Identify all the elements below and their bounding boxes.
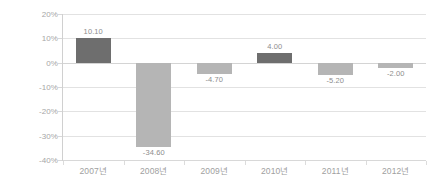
bar-2007년 [76,38,111,63]
bar-2008년 [136,63,171,147]
y-axis-tick-label: 20% [2,10,58,19]
bar-2010년 [257,53,292,63]
gridline [63,136,426,137]
x-axis-tick-label: 2012년 [366,164,426,176]
plot-area: 10.10-34.60-4.704.00-5.20-2.00 [63,14,426,160]
bar-value-label: -4.70 [184,75,244,84]
y-axis-tick-label: -20% [2,107,58,116]
bar-value-label: 10.10 [63,27,123,36]
gridline [63,14,426,15]
y-axis-tick-label: 0% [2,58,58,67]
gridline [63,38,426,39]
x-axis-tick-mark [245,161,246,165]
y-axis-tick-mark [58,87,62,88]
y-axis-tick-mark [58,63,62,64]
bar-value-label: 4.00 [245,42,305,51]
gridline [63,87,426,88]
y-axis-tick-label: -40% [2,156,58,165]
gridline [63,111,426,112]
y-axis-labels: 20%10%0%-10%-20%-30%-40% [0,0,58,190]
bar-value-label: -34.60 [124,148,184,157]
y-axis-tick-label: 10% [2,34,58,43]
x-axis-tick-mark [426,161,427,165]
chart-container: 20%10%0%-10%-20%-30%-40% 10.10-34.60-4.7… [0,0,448,190]
bar-value-label: -2.00 [366,69,426,78]
gridline [63,63,426,64]
x-axis-tick-mark [366,161,367,165]
x-axis-tick-label: 2010년 [245,164,305,176]
bar-2009년 [197,63,232,74]
x-axis-tick-mark [63,161,64,165]
x-axis-tick-mark [124,161,125,165]
bar-value-label: -5.20 [305,76,365,85]
bar-2012년 [378,63,413,68]
x-axis-tick-label: 2009년 [184,164,244,176]
y-axis-tick-label: -30% [2,131,58,140]
y-axis-tick-mark [58,111,62,112]
x-axis-tick-label: 2011년 [305,164,365,176]
y-axis-tick-label: -10% [2,83,58,92]
y-axis-tick-mark [58,38,62,39]
x-axis-tick-mark [184,161,185,165]
y-axis-tick-mark [58,14,62,15]
x-axis-tick-label: 2007년 [63,164,123,176]
x-axis-tick-label: 2008년 [124,164,184,176]
x-axis-tick-mark [305,161,306,165]
bar-2011년 [318,63,353,76]
y-axis-tick-mark [58,136,62,137]
y-axis-tick-mark [58,160,62,161]
